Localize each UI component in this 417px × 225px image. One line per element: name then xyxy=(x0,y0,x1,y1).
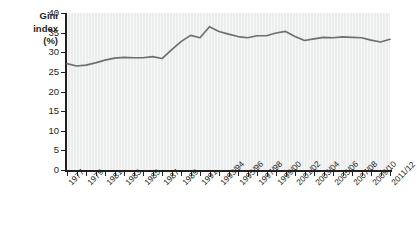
series-polyline xyxy=(67,27,390,66)
